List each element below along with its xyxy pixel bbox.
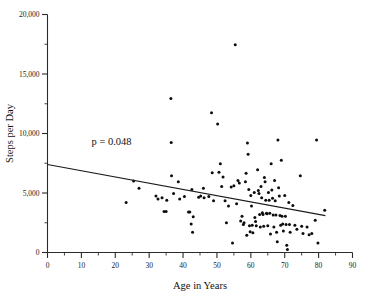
scatter-point xyxy=(260,185,263,188)
scatter-point xyxy=(264,199,267,202)
scatter-point xyxy=(323,209,326,212)
scatter-point xyxy=(207,195,210,198)
scatter-point xyxy=(260,196,263,199)
scatter-point xyxy=(281,222,284,225)
scatter-point xyxy=(270,189,273,192)
scatter-point xyxy=(212,199,215,202)
scatter-point xyxy=(249,194,252,197)
scatter-point xyxy=(156,197,159,200)
scatter-point xyxy=(275,231,278,234)
scatter-point xyxy=(295,228,298,231)
scatter-point xyxy=(190,222,193,225)
scatter-point xyxy=(280,159,283,162)
y-tick-label: 10,000 xyxy=(19,129,40,138)
regression-trend-line xyxy=(48,164,326,215)
scatter-point xyxy=(282,230,285,233)
scatter-point xyxy=(191,231,194,234)
x-tick-label: 60 xyxy=(247,261,255,270)
scatter-point xyxy=(138,187,141,190)
scatter-point xyxy=(281,215,284,218)
scatter-point xyxy=(125,201,128,204)
scatter-point xyxy=(286,248,289,251)
scatter-point xyxy=(250,205,253,208)
scatter-point xyxy=(211,171,214,174)
scatter-point xyxy=(170,174,173,177)
scatter-point xyxy=(271,197,274,200)
scatter-point xyxy=(222,175,225,178)
scatter-point xyxy=(269,233,272,236)
scatter-point xyxy=(225,221,228,224)
scatter-point xyxy=(202,187,205,190)
scatter-point xyxy=(246,142,249,145)
scatter-point xyxy=(178,197,181,200)
scatter-point xyxy=(263,176,266,179)
scatter-point xyxy=(161,196,164,199)
scatter-point xyxy=(247,188,250,191)
scatter-point xyxy=(257,192,260,195)
scatter-point xyxy=(300,225,303,228)
scatter-point xyxy=(247,153,250,156)
scatter-point xyxy=(249,230,252,233)
scatter-point xyxy=(266,212,269,215)
scatter-point xyxy=(227,205,230,208)
y-tick-label: 0 xyxy=(36,248,40,257)
scatter-point xyxy=(203,196,206,199)
scatter-point xyxy=(258,213,261,216)
scatter-point xyxy=(251,224,254,227)
scatter-point xyxy=(220,185,223,188)
x-tick-label: 10 xyxy=(78,261,86,270)
scatter-point xyxy=(310,232,313,235)
y-tick-label: 5,000 xyxy=(23,189,40,198)
x-tick-label: 70 xyxy=(281,261,289,270)
scatter-point xyxy=(268,212,271,215)
x-tick-label: 20 xyxy=(112,261,120,270)
scatter-point xyxy=(266,224,269,227)
scatter-point xyxy=(302,232,305,235)
scatter-point xyxy=(216,122,219,125)
scatter-point xyxy=(274,199,277,202)
scatter-point xyxy=(245,172,248,175)
scatter-point xyxy=(287,201,290,204)
scatter-point xyxy=(165,199,168,202)
scatter-point xyxy=(273,179,276,182)
scatter-point xyxy=(299,174,302,177)
scatter-point xyxy=(293,224,296,227)
scatter-point xyxy=(199,194,202,197)
x-tick-label: 0 xyxy=(46,261,50,270)
x-tick-label: 30 xyxy=(145,261,153,270)
scatter-point xyxy=(253,191,256,194)
scatter-points-group xyxy=(125,43,327,251)
scatter-point xyxy=(274,214,277,217)
plot-canvas: 05,00010,00015,00020,0000102030405060708… xyxy=(0,0,366,297)
scatter-point xyxy=(259,225,262,228)
scatter-point xyxy=(276,240,279,243)
y-tick-label: 20,000 xyxy=(19,10,40,19)
x-tick-label: 50 xyxy=(213,261,221,270)
scatter-point xyxy=(210,111,213,114)
scatter-point xyxy=(248,224,251,227)
scatter-point xyxy=(230,186,233,189)
scatter-point xyxy=(267,191,270,194)
scatter-point xyxy=(289,231,292,234)
x-tick-label: 90 xyxy=(349,261,357,270)
scatter-point xyxy=(177,180,180,183)
scatter-point xyxy=(270,162,273,165)
scatter-point xyxy=(257,189,260,192)
x-tick-label: 80 xyxy=(315,261,323,270)
scatter-point xyxy=(277,186,280,189)
scatter-point xyxy=(253,216,256,219)
scatter-point xyxy=(272,225,275,228)
scatter-point xyxy=(254,220,257,223)
scatter-point xyxy=(272,214,275,217)
y-axis-title: Steps per Day xyxy=(4,103,15,163)
scatter-point xyxy=(231,241,234,244)
scatter-point xyxy=(165,210,168,213)
scatter-point xyxy=(235,202,238,205)
scatter-point xyxy=(256,168,259,171)
scatter-point xyxy=(288,223,291,226)
scatter-point xyxy=(244,180,247,183)
scatter-point xyxy=(283,194,286,197)
scatter-point xyxy=(243,221,246,224)
scatter-point xyxy=(238,181,241,184)
scatter-point xyxy=(255,224,258,227)
